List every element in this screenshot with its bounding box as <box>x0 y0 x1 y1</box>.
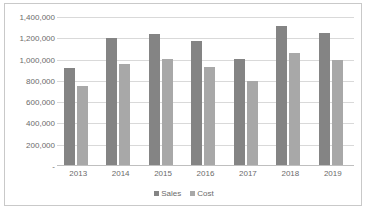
bar-group <box>227 17 269 166</box>
y-axis-tick-label: 800,000 <box>26 77 55 86</box>
plot-area <box>57 17 354 166</box>
y-axis-tick-label: 1,000,000 <box>19 56 55 65</box>
chart-container: -200,000400,000600,000800,0001,000,0001,… <box>4 3 362 206</box>
bar-cost-2019[interactable] <box>332 60 343 166</box>
axis-baseline <box>57 165 354 166</box>
bar-cost-2016[interactable] <box>204 67 215 166</box>
bar-sales-2018[interactable] <box>276 26 287 166</box>
legend-item-cost[interactable]: Cost <box>190 189 213 198</box>
bar-group <box>57 17 99 166</box>
bar-cost-2015[interactable] <box>162 59 173 166</box>
bar-sales-2015[interactable] <box>149 34 160 167</box>
x-axis-tick-label: 2019 <box>312 168 354 179</box>
x-axis-tick-label: 2015 <box>142 168 184 179</box>
legend-label: Sales <box>161 189 181 198</box>
x-axis: 2013201420152016201720182019 <box>57 168 354 182</box>
y-axis-tick-label: 1,200,000 <box>19 34 55 43</box>
x-axis-tick-label: 2013 <box>57 168 99 179</box>
y-axis-tick-label: 200,000 <box>26 141 55 150</box>
bar-sales-2014[interactable] <box>106 38 117 166</box>
bar-sales-2016[interactable] <box>191 41 202 166</box>
chart-legend: SalesCost <box>5 189 363 198</box>
bar-cost-2014[interactable] <box>119 64 130 166</box>
x-axis-tick-label: 2018 <box>269 168 311 179</box>
bar-group <box>142 17 184 166</box>
bar-cost-2018[interactable] <box>289 53 300 166</box>
bar-group <box>269 17 311 166</box>
bar-cost-2013[interactable] <box>77 86 88 166</box>
bar-sales-2013[interactable] <box>64 68 75 166</box>
bar-cost-2017[interactable] <box>247 81 258 166</box>
legend-swatch-icon <box>154 191 159 196</box>
x-axis-tick-label: 2016 <box>185 168 227 179</box>
legend-item-sales[interactable]: Sales <box>154 189 181 198</box>
y-axis: -200,000400,000600,000800,0001,000,0001,… <box>11 4 55 212</box>
y-axis-tick-label: 1,400,000 <box>19 13 55 22</box>
y-axis-tick-label: 400,000 <box>26 119 55 128</box>
bar-group <box>312 17 354 166</box>
x-axis-tick-label: 2017 <box>227 168 269 179</box>
bar-group <box>99 17 141 166</box>
x-axis-tick-label: 2014 <box>100 168 142 179</box>
bar-sales-2019[interactable] <box>319 33 330 166</box>
legend-label: Cost <box>197 189 213 198</box>
bar-group <box>184 17 226 166</box>
y-axis-tick-label: 600,000 <box>26 98 55 107</box>
y-axis-tick-label: - <box>52 162 55 171</box>
bar-sales-2017[interactable] <box>234 59 245 166</box>
legend-swatch-icon <box>190 191 195 196</box>
